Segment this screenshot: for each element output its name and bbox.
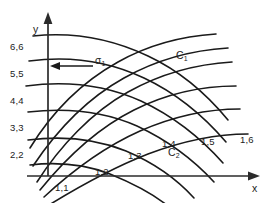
x-axis-label: x [252, 182, 257, 194]
y-tick-label: 5,5 [10, 68, 24, 79]
x-axis-arrowhead [248, 172, 260, 181]
sigma-pointer-arrowhead [50, 62, 60, 70]
x-tick-label: 1,3 [128, 150, 142, 161]
curve-family-c1-label: C1 [176, 49, 188, 61]
y-axis-arrowhead [44, 12, 53, 24]
sigma-label: σ1 [95, 55, 105, 66]
c1-letter: C [176, 49, 184, 61]
y-tick-label: 2,2 [10, 149, 24, 160]
x-tick-label: 1,5 [201, 136, 215, 147]
x-tick-label: 1,6 [240, 134, 254, 145]
c1-subscript: 1 [184, 55, 188, 62]
figure-canvas: y x C1 C2 σ1 6,6 5,5 4,4 3,3 2,2 1,1 1,2… [0, 0, 274, 203]
y-tick-label: 4,4 [10, 95, 24, 106]
sigma-pointer [50, 62, 93, 70]
y-tick-label: 3,3 [10, 122, 24, 133]
curve-c1-1 [33, 35, 228, 120]
x-tick-label: 1,4 [162, 138, 176, 149]
curve-family-c1 [26, 35, 228, 203]
curve-c1-2 [29, 59, 226, 142]
sigma-subscript: 1 [101, 60, 105, 67]
y-axis-label: y [33, 23, 38, 35]
c2-subscript: 2 [176, 152, 180, 159]
x-tick-label: 1,1 [55, 182, 69, 193]
y-tick-label: 6,6 [10, 41, 24, 52]
diagram-svg [0, 0, 274, 203]
x-tick-label: 1,2 [95, 166, 109, 177]
